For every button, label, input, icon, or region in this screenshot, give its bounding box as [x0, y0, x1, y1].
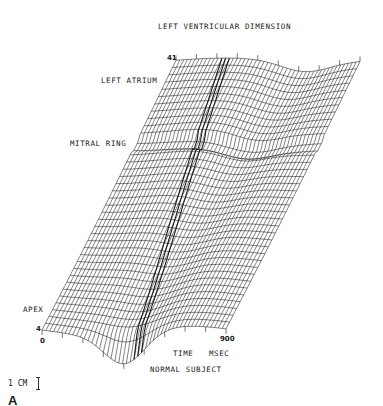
x-tick-0: 0	[40, 338, 45, 345]
panel-label: A	[8, 394, 17, 406]
y-tick-41: 41	[167, 55, 177, 62]
wireframe-surface-plot	[0, 0, 383, 406]
annotation-apex: APEX	[23, 306, 43, 314]
x-axis-label: TIME	[173, 350, 193, 358]
y-tick-4: 4	[36, 326, 41, 333]
annotation-left-atrium: LEFT ATRIUM	[101, 77, 157, 85]
x-tick-900: 900	[220, 336, 235, 343]
annotation-mitral-ring: MITRAL RING	[70, 140, 126, 148]
figure-caption: NORMAL SUBJECT	[150, 366, 222, 374]
chart-title: LEFT VENTRICULAR DIMENSION	[158, 23, 291, 31]
scale-bar-label: 1 CM	[8, 380, 27, 388]
scale-bar	[36, 377, 40, 390]
x-axis-unit: MSEC	[209, 350, 229, 358]
